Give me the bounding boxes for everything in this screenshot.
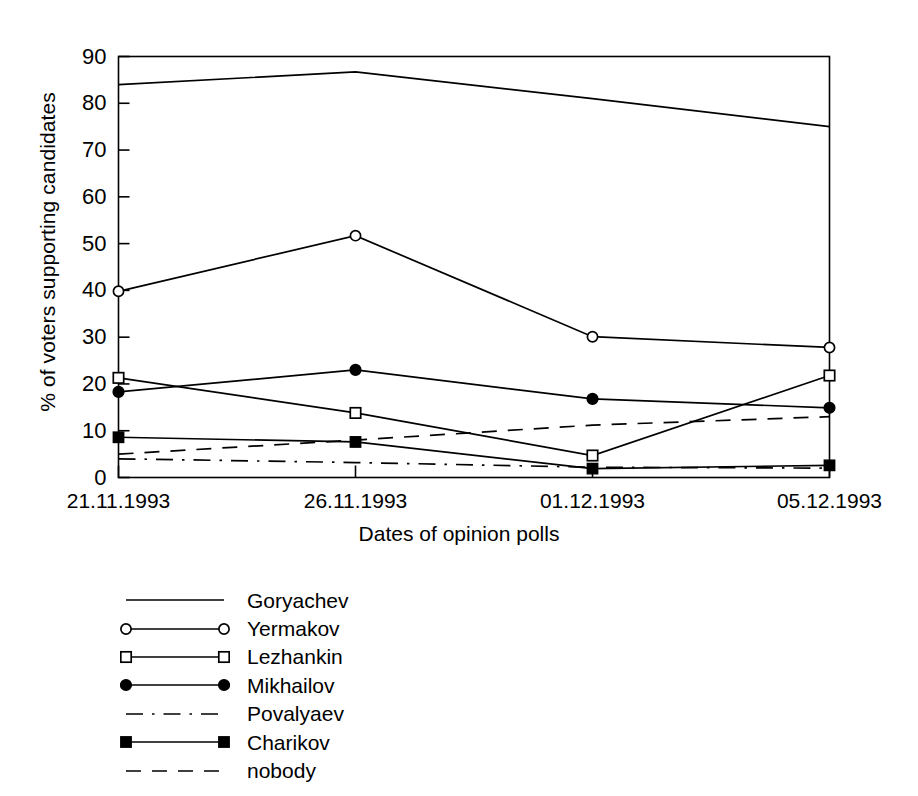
legend-line-sample (120, 587, 230, 613)
x-tick-label: 21.11.1993 (39, 490, 199, 511)
legend-item-charikov[interactable]: Charikov (120, 728, 550, 756)
legend-label: Povalyaev (230, 703, 344, 724)
x-tick-label: 26.11.1993 (276, 490, 436, 511)
data-point-marker (824, 402, 835, 413)
series-nobody (119, 417, 830, 454)
data-point-marker (350, 408, 360, 418)
data-point-marker (121, 737, 131, 747)
legend-line-sample (120, 672, 230, 698)
data-point-marker (219, 680, 230, 691)
data-point-marker (113, 373, 123, 383)
data-point-marker (113, 286, 123, 296)
x-tick-label: 05.12.1993 (750, 490, 910, 511)
legend-line-sample (120, 644, 230, 670)
legend-label: Charikov (230, 732, 330, 753)
legend-label: nobody (230, 760, 316, 781)
x-tick-label: 01.12.1993 (513, 490, 673, 511)
legend-item-nobody[interactable]: nobody (120, 756, 550, 784)
data-point-marker (350, 437, 360, 447)
data-point-marker (113, 386, 124, 397)
data-point-marker (824, 460, 834, 470)
data-point-marker (587, 463, 597, 473)
legend-label: Lezhankin (230, 646, 343, 667)
series-line (119, 236, 830, 348)
data-point-marker (219, 652, 229, 662)
legend-line-sample (120, 729, 230, 755)
series-line (119, 376, 830, 456)
chart-legend: GoryachevYermakovLezhankinMikhailovPoval… (120, 586, 550, 785)
legend-label: Yermakov (230, 618, 340, 639)
series-line (119, 72, 830, 127)
legend-label: Mikhailov (230, 675, 335, 696)
plot-area (0, 0, 918, 500)
series-charikov (113, 432, 834, 474)
legend-item-mikhailov[interactable]: Mikhailov (120, 671, 550, 699)
series-mikhailov (113, 365, 835, 414)
data-point-marker (121, 680, 132, 691)
series-line (119, 437, 830, 468)
data-point-marker (121, 623, 131, 633)
data-point-marker (219, 623, 229, 633)
data-point-marker (113, 432, 123, 442)
series-group (113, 72, 835, 474)
data-point-marker (350, 365, 361, 376)
series-line (119, 417, 830, 454)
data-point-marker (587, 450, 597, 460)
data-point-marker (587, 332, 597, 342)
legend-item-goryachev[interactable]: Goryachev (120, 586, 550, 614)
data-point-marker (824, 370, 834, 380)
legend-line-sample (120, 701, 230, 727)
legend-line-sample (120, 758, 230, 784)
series-yermakov (113, 231, 834, 353)
series-goryachev (119, 72, 830, 127)
x-axis-title: Dates of opinion polls (0, 522, 918, 546)
data-point-marker (350, 231, 360, 241)
series-line (119, 370, 830, 408)
data-point-marker (121, 652, 131, 662)
chart-figure: % of voters supporting candidates 010203… (0, 0, 918, 796)
legend-item-lezhankin[interactable]: Lezhankin (120, 643, 550, 671)
data-point-marker (219, 737, 229, 747)
legend-label: Goryachev (230, 590, 349, 611)
legend-line-sample (120, 616, 230, 642)
legend-item-yermakov[interactable]: Yermakov (120, 614, 550, 642)
data-point-marker (824, 342, 834, 352)
legend-item-povalyaev[interactable]: Povalyaev (120, 700, 550, 728)
data-point-marker (587, 394, 598, 405)
